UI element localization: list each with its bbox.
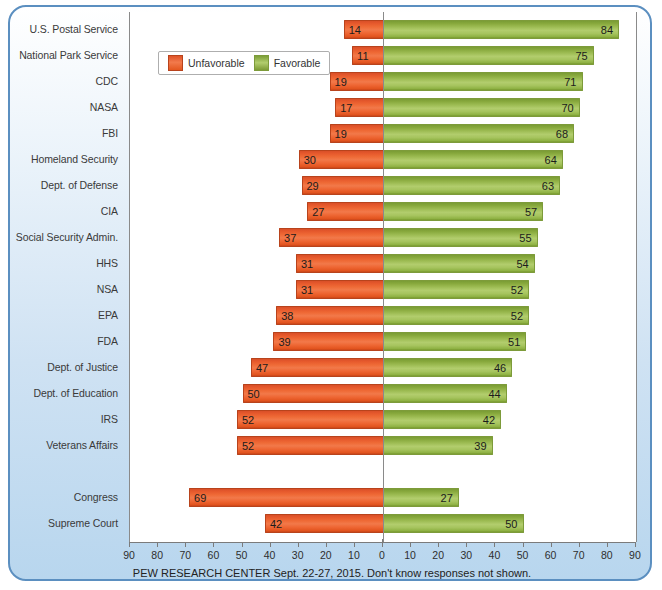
bar-unfavorable: 69 — [189, 488, 383, 507]
axis-tick-label: 70 — [179, 549, 191, 561]
bar-value-unfavorable: 38 — [281, 310, 293, 322]
bar-favorable: 50 — [383, 514, 524, 533]
axis-tick-label: 70 — [573, 549, 585, 561]
axis-tick — [213, 542, 214, 547]
bar-favorable: 70 — [383, 98, 580, 117]
bar-unfavorable: 19 — [330, 72, 383, 91]
axis-tick-label: 60 — [208, 549, 220, 561]
chart-legend: Unfavorable Favorable — [158, 51, 330, 75]
bar-value-unfavorable: 47 — [256, 362, 268, 374]
bar-value-favorable: 52 — [511, 310, 523, 322]
bar-value-unfavorable: 52 — [242, 440, 254, 452]
axis-tick — [298, 542, 299, 547]
bar-favorable: 57 — [383, 202, 543, 221]
bar-value-favorable: 75 — [576, 50, 588, 62]
chart-card: U.S. Postal ServiceNational Park Service… — [8, 5, 652, 581]
axis-tick — [466, 542, 467, 547]
bar-unfavorable: 38 — [276, 306, 383, 325]
bar-unfavorable: 27 — [307, 202, 383, 221]
axis-tick-label: 90 — [629, 549, 641, 561]
bar-unfavorable: 29 — [302, 176, 383, 195]
bar-value-unfavorable: 50 — [248, 388, 260, 400]
axis-tick — [551, 542, 552, 547]
axis-tick-label: 40 — [264, 549, 276, 561]
axis-tick — [382, 539, 383, 547]
axis-tick — [635, 542, 636, 547]
bar-value-unfavorable: 37 — [284, 232, 296, 244]
category-label: Dept. of Justice — [47, 361, 118, 373]
bar-unfavorable: 30 — [299, 150, 383, 169]
axis-tick-label: 0 — [379, 549, 385, 561]
bar-value-favorable: 71 — [564, 76, 576, 88]
bar-unfavorable: 31 — [296, 280, 383, 299]
bar-unfavorable: 11 — [352, 46, 383, 65]
axis-tick — [129, 542, 130, 547]
legend-label-unfavorable: Unfavorable — [188, 57, 245, 69]
bar-unfavorable: 31 — [296, 254, 383, 273]
bar-favorable: 42 — [383, 410, 501, 429]
bar-value-favorable: 84 — [601, 24, 613, 36]
bar-favorable: 64 — [383, 150, 563, 169]
category-label: Congress — [74, 491, 118, 503]
bar-value-favorable: 68 — [556, 128, 568, 140]
bar-value-unfavorable: 11 — [357, 50, 368, 62]
axis-tick — [410, 542, 411, 547]
legend-label-favorable: Favorable — [274, 57, 321, 69]
bar-value-unfavorable: 29 — [307, 180, 319, 192]
category-label-column: U.S. Postal ServiceNational Park Service… — [10, 12, 124, 542]
bar-unfavorable: 47 — [251, 358, 383, 377]
category-label: NASA — [90, 101, 118, 113]
bar-unfavorable: 37 — [279, 228, 383, 247]
bar-favorable: 68 — [383, 124, 574, 143]
axis-tick-label: 30 — [460, 549, 472, 561]
category-label: Homeland Security — [31, 153, 118, 165]
axis-tick-label: 80 — [151, 549, 163, 561]
category-label: Social Security Admin. — [16, 231, 118, 243]
axis-tick — [523, 542, 524, 547]
bar-favorable: 27 — [383, 488, 459, 507]
bar-value-unfavorable: 39 — [278, 336, 290, 348]
bar-value-favorable: 70 — [561, 102, 573, 114]
bar-value-favorable: 46 — [494, 362, 506, 374]
category-label: Supreme Court — [48, 517, 118, 529]
axis-tick-label: 50 — [517, 549, 529, 561]
category-label: EPA — [98, 309, 118, 321]
category-label: Dept. of Defense — [41, 179, 118, 191]
x-axis: 9080706050403020100102030405060708090 — [129, 542, 635, 568]
bar-value-favorable: 52 — [511, 284, 523, 296]
axis-tick-label: 90 — [123, 549, 135, 561]
bar-value-favorable: 51 — [508, 336, 520, 348]
bar-favorable: 39 — [383, 436, 493, 455]
axis-tick-label: 30 — [292, 549, 304, 561]
bar-value-favorable: 44 — [488, 388, 500, 400]
legend-item-favorable[interactable]: Favorable — [254, 55, 321, 71]
bar-favorable: 52 — [383, 306, 529, 325]
bar-unfavorable: 19 — [330, 124, 383, 143]
bar-favorable: 55 — [383, 228, 538, 247]
category-label: HHS — [96, 257, 118, 269]
bar-favorable: 63 — [383, 176, 560, 195]
plot-area: 1484117519711770196830642963275737553154… — [129, 12, 637, 542]
zero-axis-line — [383, 12, 384, 542]
category-label: Veterans Affairs — [46, 439, 118, 451]
bar-favorable: 46 — [383, 358, 512, 377]
bar-value-unfavorable: 30 — [304, 154, 316, 166]
legend-item-unfavorable[interactable]: Unfavorable — [168, 55, 245, 71]
source-note: PEW RESEARCH CENTER Sept. 22-27, 2015. D… — [10, 567, 652, 579]
bar-value-favorable: 63 — [542, 180, 554, 192]
legend-swatch-unfavorable-icon — [168, 55, 183, 71]
bar-value-unfavorable: 14 — [349, 24, 361, 36]
bar-value-favorable: 50 — [505, 518, 517, 530]
axis-tick — [185, 542, 186, 547]
axis-tick — [242, 542, 243, 547]
axis-tick-label: 20 — [320, 549, 332, 561]
bar-value-unfavorable: 17 — [340, 102, 352, 114]
bar-value-unfavorable: 31 — [301, 258, 313, 270]
category-label: U.S. Postal Service — [29, 23, 118, 35]
axis-tick-label: 60 — [545, 549, 557, 561]
axis-tick — [354, 542, 355, 547]
category-label: IRS — [101, 413, 118, 425]
category-label: National Park Service — [19, 49, 118, 61]
bar-unfavorable: 42 — [265, 514, 383, 533]
bar-favorable: 71 — [383, 72, 583, 91]
